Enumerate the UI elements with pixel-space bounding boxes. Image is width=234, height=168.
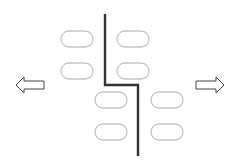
oval-left-bottom-2 xyxy=(95,124,127,140)
diagram-canvas xyxy=(0,0,234,168)
oval-right-top-1 xyxy=(117,31,149,47)
oval-right-bottom-2 xyxy=(151,124,183,140)
right-arrow-icon xyxy=(196,77,224,93)
oval-left-bottom-1 xyxy=(95,92,127,108)
boundary-line xyxy=(105,14,138,156)
oval-left-top-1 xyxy=(61,31,93,47)
oval-right-bottom-1 xyxy=(151,92,183,108)
left-arrow-icon xyxy=(16,77,44,93)
oval-right-top-2 xyxy=(117,63,149,79)
oval-left-top-2 xyxy=(61,63,93,79)
